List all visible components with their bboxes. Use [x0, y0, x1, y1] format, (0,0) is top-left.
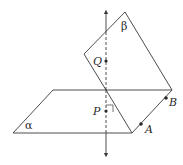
point-a — [139, 122, 143, 126]
point-q — [104, 59, 107, 62]
label-alpha: α — [25, 119, 33, 132]
label-q: Q — [93, 55, 102, 68]
label-p: P — [92, 105, 101, 118]
geometry-diagram: Q P A B α β — [0, 0, 183, 165]
label-a: A — [144, 123, 153, 136]
label-b: B — [168, 96, 177, 109]
point-p — [104, 109, 107, 112]
point-b — [164, 96, 168, 100]
label-beta: β — [121, 20, 127, 33]
